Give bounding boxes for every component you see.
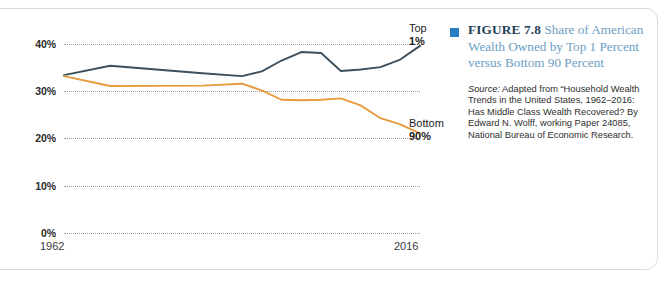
series-line-top-1-percent (64, 46, 420, 76)
figure-caption-panel: FIGURE 7.8 Share of American Wealth Owne… (450, 22, 646, 141)
figure-source-label: Source: (468, 84, 500, 94)
figure-number: FIGURE 7.8 (468, 22, 541, 37)
series-line-bottom-90-percent (64, 76, 420, 133)
line-chart: 40% 30% 20% 10% 0% 1962 2016 Top 1% Bott… (0, 0, 460, 288)
figure-marker-icon (450, 28, 459, 37)
figure-source: Source: Adapted from “Household Wealth T… (468, 84, 644, 142)
series-label-bottom-90-percent: Bottom 90% (409, 117, 444, 143)
series-label-top-line1: Top (409, 22, 427, 34)
series-label-bottom-line2: 90% (409, 130, 444, 143)
series-label-top-line2: 1% (409, 35, 427, 48)
figure-title: FIGURE 7.8 Share of American Wealth Owne… (468, 22, 646, 72)
figure-card-page: 40% 30% 20% 10% 0% 1962 2016 Top 1% Bott… (0, 0, 671, 288)
series-label-bottom-line1: Bottom (409, 117, 444, 129)
series-label-top-1-percent: Top 1% (409, 22, 427, 48)
plot-lines (0, 0, 460, 288)
